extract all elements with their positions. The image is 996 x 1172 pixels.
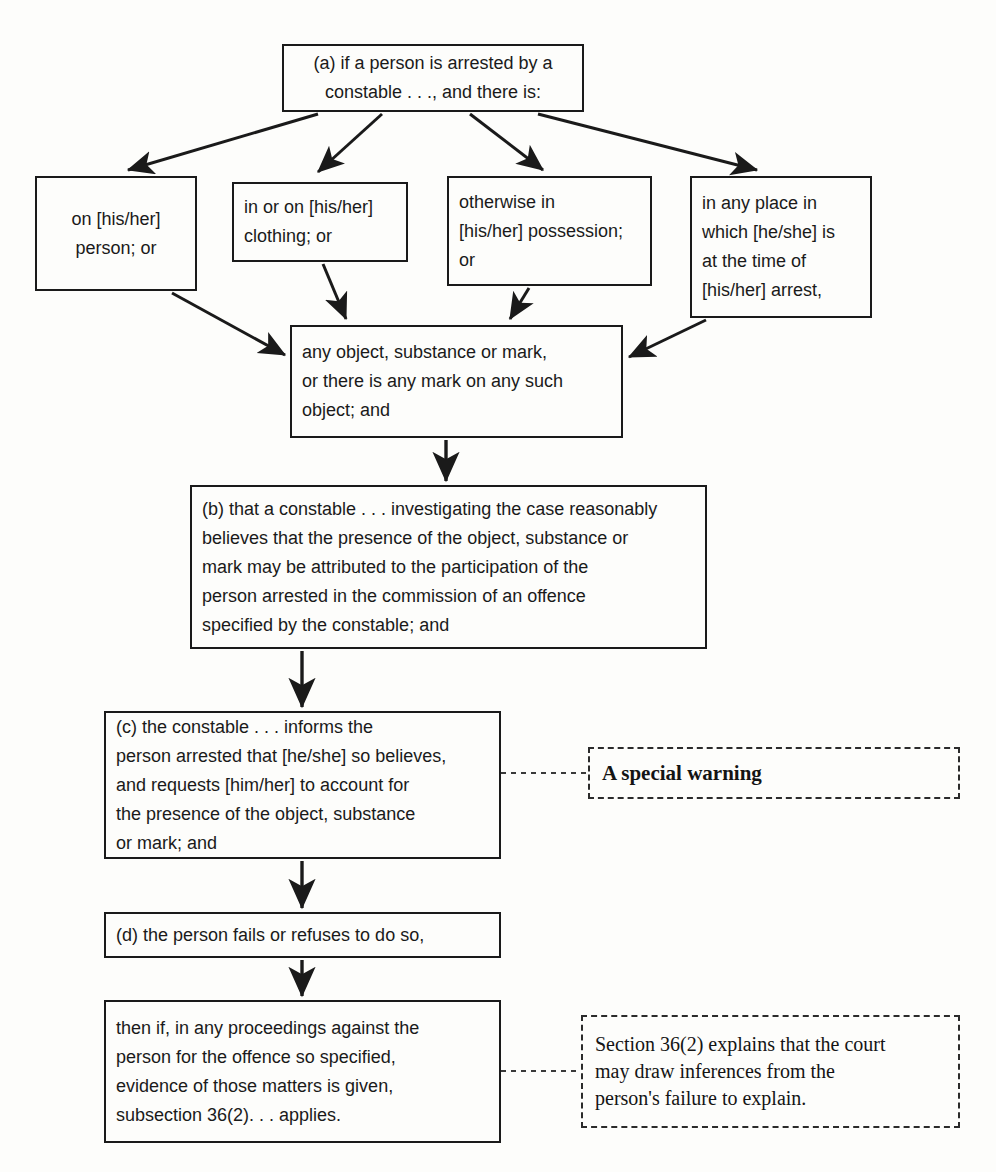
node-on-person-text: on [his/her] person; or xyxy=(37,205,195,263)
node-object-substance-or-mark-text: any object, substance or mark, or there … xyxy=(292,338,621,425)
node-clause-a: (a) if a person is arrested by a constab… xyxy=(282,44,584,112)
node-clause-c-text: (c) the constable . . . informs the pers… xyxy=(106,713,499,858)
node-consequence: then if, in any proceedings against the … xyxy=(104,1000,501,1143)
node-clause-b-text: (b) that a constable . . . investigating… xyxy=(192,495,705,640)
node-clause-d-text: (d) the person fails or refuses to do so… xyxy=(106,921,499,950)
edges-from-node-a xyxy=(128,114,757,172)
node-otherwise-in-possession: otherwise in [his/her] possession; or xyxy=(447,176,652,286)
annotation-section-note-text: Section 36(2) explains that the court ma… xyxy=(583,1031,958,1112)
node-clause-b: (b) that a constable . . . investigating… xyxy=(190,485,707,649)
node-in-or-on-clothing: in or on [his/her] clothing; or xyxy=(232,182,408,262)
node-clause-a-text: (a) if a person is arrested by a constab… xyxy=(284,49,582,107)
node-in-any-place-text: in any place in which [he/she] is at the… xyxy=(692,189,870,305)
annotation-leader-lines xyxy=(501,773,588,1071)
node-consequence-text: then if, in any proceedings against the … xyxy=(106,1014,499,1130)
node-clause-c: (c) the constable . . . informs the pers… xyxy=(104,711,501,859)
annotation-special-warning: A special warning xyxy=(588,747,960,799)
flowchart-canvas: (a) if a person is arrested by a constab… xyxy=(0,0,996,1172)
node-object-substance-or-mark: any object, substance or mark, or there … xyxy=(290,325,623,438)
node-in-any-place: in any place in which [he/she] is at the… xyxy=(690,176,872,318)
node-on-person: on [his/her] person; or xyxy=(35,176,197,291)
annotation-section-note: Section 36(2) explains that the court ma… xyxy=(581,1015,960,1128)
node-clause-d: (d) the person fails or refuses to do so… xyxy=(104,912,501,958)
node-in-or-on-clothing-text: in or on [his/her] clothing; or xyxy=(234,193,406,251)
node-otherwise-in-possession-text: otherwise in [his/her] possession; or xyxy=(449,188,650,275)
annotation-special-warning-text: A special warning xyxy=(590,760,958,787)
